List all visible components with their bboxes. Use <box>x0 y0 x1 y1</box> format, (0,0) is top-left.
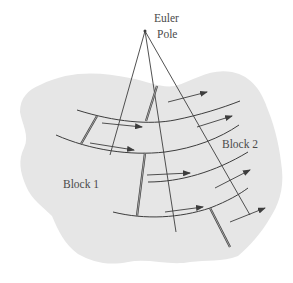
pole-label-line2: Pole <box>157 28 177 40</box>
euler-pole-diagram: Euler Pole Block 1 Block 2 <box>0 0 293 283</box>
block-1-label: Block 1 <box>63 178 99 190</box>
block-region <box>20 71 282 263</box>
euler-label-line1: Euler <box>154 12 179 24</box>
block-2-label: Block 2 <box>222 138 258 150</box>
euler-pole-point <box>144 30 147 33</box>
